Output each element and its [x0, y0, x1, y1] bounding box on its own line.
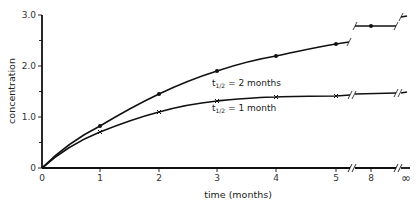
annotation-t-half-1-month: t1/2 = 1 month [212, 103, 276, 114]
y-tick-labels: 0 1.0 2.0 3.0 [22, 10, 37, 173]
dot-marker [98, 124, 102, 128]
x-tick-label: ∞ [401, 171, 411, 185]
x-tick-label: 2 [156, 173, 162, 183]
dot-marker [274, 54, 278, 58]
y-tick-label: 1.0 [22, 112, 37, 122]
dot-marker [369, 24, 373, 28]
x-tick-label: 1 [97, 173, 103, 183]
x-tick-label: 5 [333, 173, 339, 183]
x-axis-title: time (months) [204, 189, 272, 200]
axes [38, 15, 410, 172]
series-t-half-2-months [42, 13, 407, 168]
y-tick-label: 0 [30, 163, 36, 173]
series-t-half-1-month-markers [98, 94, 338, 134]
y-tick-label: 2.0 [22, 61, 37, 71]
concentration-chart: 0 1.0 2.0 3.0 0 1 2 3 4 5 8 ∞ time (mont… [0, 0, 419, 204]
x-tick-labels: 0 1 2 3 4 5 8 ∞ [39, 171, 411, 185]
y-axis-title: concentration [6, 58, 17, 124]
y-tick-label: 3.0 [22, 10, 37, 20]
x-tick-label: 3 [214, 173, 220, 183]
annotation-t-half-2-months: t1/2 = 2 months [212, 78, 281, 89]
x-tick-label: 4 [273, 173, 279, 183]
dot-marker [334, 42, 338, 46]
dot-marker [215, 69, 219, 73]
x-tick-label: 8 [368, 173, 374, 183]
x-tick-label: 0 [39, 173, 45, 183]
dot-marker [157, 92, 161, 96]
